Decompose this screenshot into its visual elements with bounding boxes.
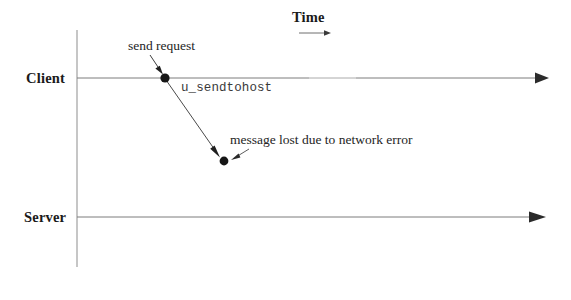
lost-message-dot (220, 157, 229, 166)
lost-message-arrowhead (210, 146, 220, 158)
lifeline-label-server: Server (24, 210, 66, 225)
time-axis-title: Time (292, 10, 325, 25)
send-event-dot (160, 73, 169, 82)
lifeline-label-client: Client (26, 71, 65, 86)
annotation-message-lost: message lost due to network error (230, 133, 413, 147)
message-lost-leader-arrowhead (231, 153, 240, 160)
client-lifeline-arrowhead (535, 73, 549, 84)
annotation-send-request: send request (128, 39, 195, 53)
diagram-canvas (0, 0, 571, 300)
send-request-leader-arrowhead (155, 66, 163, 75)
server-lifeline-arrowhead (529, 212, 546, 223)
time-direction-arrowhead (324, 30, 331, 36)
sequence-diagram: Client Server Time send request u_sendto… (0, 0, 571, 300)
annotation-api-call: u_sendtohost (181, 82, 272, 95)
